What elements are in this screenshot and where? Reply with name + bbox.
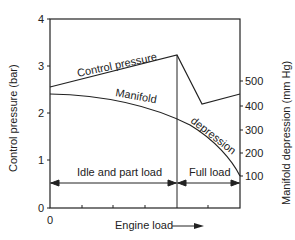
control-pressure-label: Control pressure (76, 50, 158, 79)
y2-tick-100: 100 (245, 170, 263, 182)
y2-tick-500: 500 (245, 75, 263, 87)
y-axis-label: Control pressure (bar) (7, 64, 19, 172)
y-tick-2: 2 (38, 107, 44, 119)
x-axis-label: Engine load (115, 219, 173, 231)
plot-frame (50, 19, 240, 208)
y2-tick-200: 200 (245, 147, 263, 159)
idle-part-load-label: Idle and part load (77, 166, 162, 178)
y-tick-3: 3 (38, 60, 44, 72)
region-arrows (50, 180, 240, 186)
full-load-label: Full load (189, 166, 231, 178)
y2-axis-label: Manifold depression (mm Hg) (280, 61, 292, 205)
depression-label: depression (189, 114, 239, 157)
y-tick-4: 4 (38, 13, 44, 25)
chart: 4 3 2 1 0 0 500 400 300 200 100 Control … (0, 0, 295, 240)
y-tick-1: 1 (38, 154, 44, 166)
x-tick-0: 0 (47, 214, 53, 226)
y2-tick-400: 400 (245, 100, 263, 112)
manifold-label: Manifold (115, 86, 158, 105)
y2-tick-300: 300 (245, 124, 263, 136)
y-tick-0: 0 (38, 202, 44, 214)
x-arrow-icon (172, 223, 204, 229)
